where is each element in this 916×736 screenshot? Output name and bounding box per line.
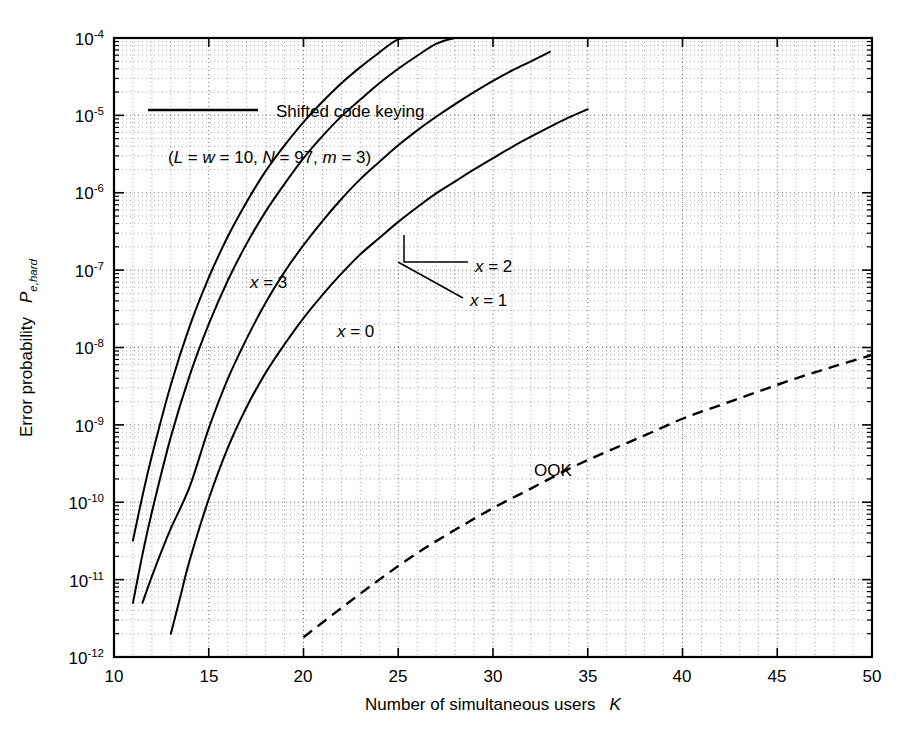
curve-label-x0: x = 0	[336, 322, 374, 341]
y-tick-label-1e-9: 10-9	[75, 415, 104, 436]
figure-root: Shifted code keying (L = w = 10, N = 97,…	[0, 0, 916, 736]
curve-annotations: x = 3 x = 2 x = 1 x = 0 OOK	[249, 257, 572, 480]
curve-label-x2-var: x	[474, 257, 484, 276]
y-tick-exp-1e-8: -8	[94, 337, 104, 349]
y-tick-exp-1e-11: -11	[88, 570, 104, 582]
y-axis-title-symbol: P	[17, 291, 36, 303]
curve-label-ook: OOK	[534, 461, 572, 480]
x-tick-label-45: 45	[768, 667, 787, 686]
curve-label-x1: x = 1	[469, 291, 507, 310]
y-tick-base-1e-4: 10	[75, 30, 94, 49]
legend-eq1: =	[183, 148, 202, 167]
y-tick-base-1e-11: 10	[69, 572, 88, 591]
x-axis-title-symbol: K	[610, 695, 622, 714]
curve-label-x1-val: = 1	[479, 291, 508, 310]
x-tick-label-35: 35	[579, 667, 598, 686]
y-tick-exp-1e-10: -10	[87, 492, 104, 504]
x-tick-label-20: 20	[294, 667, 313, 686]
x-tick-label-40: 40	[673, 667, 692, 686]
y-tick-exp-1e-9: -9	[94, 415, 104, 427]
curve-label-x3-val: = 3	[259, 273, 288, 292]
curve-label-x2: x = 2	[474, 257, 512, 276]
y-tick-exp-1e-12: -12	[87, 647, 104, 659]
y-tick-exp-1e-6: -6	[94, 182, 104, 194]
y-tick-label-1e-10: 10-10	[68, 492, 104, 513]
x-axis-title-text: Number of simultaneous users	[365, 695, 596, 714]
leader-lines-layer	[398, 235, 468, 298]
x-tick-label-25: 25	[389, 667, 408, 686]
y-tick-base-1e-9: 10	[75, 417, 94, 436]
y-axis-title: Error probabilityPe,hard	[17, 258, 39, 437]
legend-eq2: = 10,	[215, 148, 263, 167]
x-axis-title: Number of simultaneous usersK	[365, 695, 622, 714]
curve-label-x3-var: x	[249, 273, 259, 292]
y-tick-label-1e-5: 10-5	[75, 105, 104, 126]
chart-canvas: Shifted code keying (L = w = 10, N = 97,…	[0, 0, 916, 736]
y-tick-base-1e-7: 10	[75, 262, 94, 281]
x-tick-label-30: 30	[484, 667, 503, 686]
legend-eq4: = 3)	[337, 148, 372, 167]
y-tick-exp-1e-4: -4	[94, 28, 105, 40]
y-tick-base-1e-5: 10	[75, 107, 94, 126]
param-N: N	[263, 148, 276, 167]
y-tick-label-1e-6: 10-6	[75, 182, 104, 203]
param-m: m	[323, 148, 337, 167]
legend-params-line: (L = w = 10, N = 97, m = 3)	[168, 148, 371, 167]
legend-eq3: = 97,	[275, 148, 323, 167]
y-tick-label-1e-8: 10-8	[75, 337, 104, 358]
x-tick-labels: 10 15 20 25 30 35 40 45 50	[105, 667, 882, 686]
y-tick-exp-1e-5: -5	[94, 105, 104, 117]
x-tick-label-50: 50	[863, 667, 882, 686]
curve-label-x2-val: = 2	[484, 257, 513, 276]
curve-label-x0-val: = 0	[346, 322, 375, 341]
y-tick-label-1e-7: 10-7	[75, 260, 104, 281]
y-tick-label-1e-12: 10-12	[68, 647, 104, 668]
leader-line-x1	[398, 262, 463, 298]
y-tick-base-1e-8: 10	[75, 339, 94, 358]
legend-label-shifted-code-keying: Shifted code keying	[276, 102, 424, 121]
grid-layer	[114, 38, 872, 657]
y-tick-exp-1e-7: -7	[94, 260, 104, 272]
y-tick-base-1e-10: 10	[68, 494, 87, 513]
curve-label-x3: x = 3	[249, 273, 287, 292]
y-tick-labels: 10-4 10-5 10-6 10-7 10-8 10-9 10-10 10-1…	[68, 28, 104, 668]
curve-label-x1-var: x	[469, 291, 479, 310]
data-curve-x-0	[171, 109, 588, 633]
y-axis-title-text: Error probability	[17, 316, 36, 436]
curve-label-x0-var: x	[336, 322, 346, 341]
param-L: L	[174, 148, 183, 167]
leader-line-x2	[404, 235, 468, 262]
x-tick-label-15: 15	[200, 667, 219, 686]
x-tick-label-10: 10	[105, 667, 124, 686]
y-tick-label-1e-4: 10-4	[75, 28, 105, 49]
y-tick-label-1e-11: 10-11	[69, 570, 104, 591]
y-tick-base-1e-12: 10	[68, 649, 87, 668]
y-tick-base-1e-6: 10	[75, 184, 94, 203]
y-axis-title-subscript: e,hard	[27, 258, 39, 291]
